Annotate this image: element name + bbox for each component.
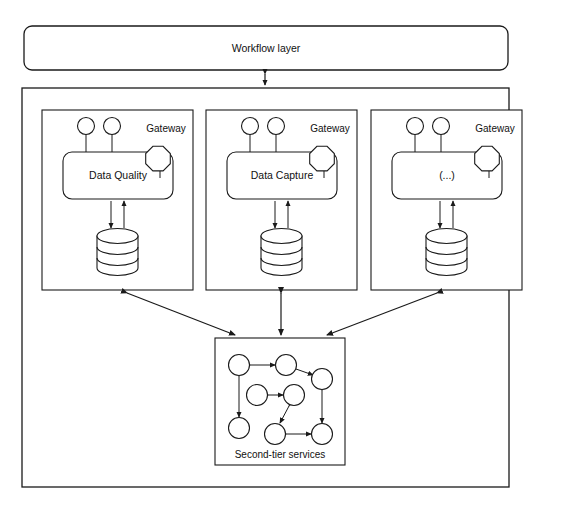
- second-tier-services-group: Second-tier services: [215, 338, 345, 465]
- service-node: [312, 424, 333, 445]
- interface-circle-icon: [242, 118, 259, 135]
- gateway-octagon-icon: [146, 146, 171, 171]
- service-node: [247, 385, 268, 406]
- service-box-other: (...) Gateway: [371, 110, 522, 290]
- second-tier-label: Second-tier services: [235, 449, 326, 460]
- interface-circle-icon: [268, 118, 285, 135]
- interface-circle-icon: [433, 118, 450, 135]
- component-label: Data Quality: [89, 169, 148, 181]
- service-node: [229, 355, 250, 376]
- gateway-octagon-icon: [475, 146, 500, 171]
- interface-circle-icon: [407, 118, 424, 135]
- gateway-label: Gateway: [475, 123, 514, 134]
- gateway-label: Gateway: [146, 123, 185, 134]
- diagram-canvas: Data Quality Gateway: [0, 0, 561, 508]
- architecture-diagram: Data Quality Gateway: [0, 0, 561, 508]
- service-node: [284, 385, 305, 406]
- database-cylinder-icon: [261, 229, 302, 276]
- service-to-secondtier-connectors: [127, 293, 437, 335]
- service-node: [229, 418, 250, 439]
- workflow-layer-group: [24, 26, 508, 70]
- connector-right: [327, 293, 437, 335]
- interface-circle-icon: [78, 118, 95, 135]
- component-label: Data Capture: [251, 169, 314, 181]
- interface-circle-icon: [104, 118, 121, 135]
- service-box-data-quality: Data Quality Gateway: [42, 110, 193, 290]
- component-label: (...): [439, 169, 455, 181]
- service-node: [312, 369, 333, 390]
- connector-left: [127, 293, 235, 335]
- gateway-label: Gateway: [310, 123, 349, 134]
- database-cylinder-icon: [426, 229, 467, 276]
- gateway-octagon-icon: [310, 146, 335, 171]
- service-node: [276, 355, 297, 376]
- service-box-data-capture: Data Capture Gateway: [206, 110, 357, 290]
- service-node: [265, 424, 286, 445]
- database-cylinder-icon: [97, 229, 138, 276]
- workflow-layer-box: [24, 26, 508, 70]
